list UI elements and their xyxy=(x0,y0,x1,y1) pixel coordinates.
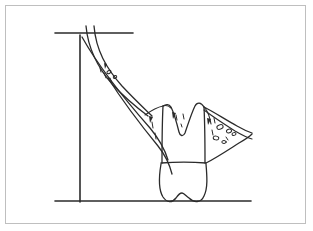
stipple-blob xyxy=(213,136,219,141)
right-soft-tissue-wing xyxy=(204,107,252,163)
crown-left-wall xyxy=(162,106,163,163)
stipple-dash xyxy=(152,122,153,128)
stipple-blob xyxy=(222,141,226,144)
figure-root: Hand-drawn anatomical line diagram of a … xyxy=(0,0,313,231)
left-soft-tissue-band xyxy=(82,26,172,174)
stipple-blob xyxy=(106,70,111,75)
anatomical-line-drawing xyxy=(0,0,313,231)
stipple-dash xyxy=(226,137,228,140)
stipple-dash xyxy=(214,118,215,123)
stipple-dash xyxy=(181,124,182,127)
stipple-dash xyxy=(212,130,213,135)
cervical-line xyxy=(161,162,206,163)
tissue-stipple-marks xyxy=(100,63,236,144)
stipple-dashes xyxy=(100,68,228,140)
tooth-group xyxy=(159,103,207,202)
tooth-root-outline xyxy=(159,164,207,202)
stipple-blob xyxy=(232,132,236,135)
stipple-triangles xyxy=(104,63,211,125)
stipple-dash xyxy=(183,114,184,119)
stipple-dash xyxy=(155,133,156,139)
crown-right-wall xyxy=(204,107,205,163)
stipple-blob xyxy=(226,129,232,134)
tooth-crown-outline xyxy=(163,103,204,135)
stipple-blob xyxy=(216,124,224,130)
